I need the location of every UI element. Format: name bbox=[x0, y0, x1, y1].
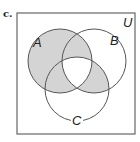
venn-diagram: A B C U bbox=[0, 0, 140, 142]
venn-diagram-figure: c. bbox=[0, 0, 140, 142]
set-label-c: C bbox=[72, 113, 82, 128]
universe-label: U bbox=[123, 15, 133, 30]
set-label-a: A bbox=[32, 35, 42, 50]
set-label-b: B bbox=[110, 33, 119, 48]
